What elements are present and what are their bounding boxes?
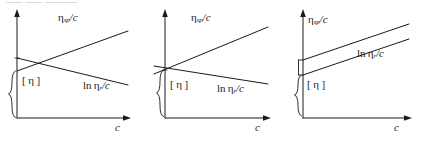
plot-panel-1: ηsp/c ln ηr/c [η] c (0, 0, 140, 141)
ln-eta-symbol: ln η (83, 79, 100, 91)
x-axis-arrowhead (263, 115, 271, 121)
label-eta-sp-over-c: ηsp/c (191, 12, 211, 26)
label-ln-eta-r-over-c: ln ηr/c (217, 83, 244, 97)
line-eta-sp-over-c (154, 27, 268, 74)
plot-panel-2: ηsp/c ln ηr/c [η] c (140, 0, 280, 141)
bracket-close: ] (184, 78, 188, 90)
label-ln-eta-r-over-c: ln ηr/c (357, 48, 384, 62)
eta-sp-denominator: /c (320, 13, 328, 25)
y-axis-arrowhead (300, 9, 306, 17)
intrinsic-eta-symbol: η (311, 78, 321, 90)
panel-3-canvas (281, 0, 421, 141)
ln-eta-denominator: /c (236, 82, 244, 94)
x-axis-label-text: c (255, 121, 260, 133)
y-axis-arrowhead (14, 9, 20, 17)
label-ln-eta-r-over-c: ln ηr/c (83, 80, 110, 94)
label-eta-sp-over-c: ηsp/c (308, 14, 328, 28)
intrinsic-eta-symbol: η (174, 78, 184, 90)
plot-panel-3: ηsp/c ln ηr/c [η] c (281, 0, 421, 141)
bracket-close: ] (36, 74, 40, 86)
x-axis-label-text: c (115, 121, 120, 133)
x-axis-arrowhead (404, 115, 412, 121)
ln-eta-denominator: /c (376, 47, 384, 59)
x-axis-label: c (115, 122, 120, 133)
x-axis-label: c (394, 122, 399, 133)
intrinsic-viscosity-brace (157, 70, 164, 117)
line-eta-sp-over-c (303, 24, 409, 60)
x-axis-arrowhead (123, 115, 131, 121)
line-eta-sp-over-c (17, 31, 128, 71)
intrinsic-eta-symbol: η (26, 74, 36, 86)
label-intrinsic-viscosity: [η] (170, 79, 189, 90)
viscosity-figure: —— —— ———— ηsp/c (0, 0, 421, 141)
y-axis-arrowhead (162, 9, 168, 17)
eta-sp-denominator: /c (203, 11, 211, 23)
intercept-gap-bracket (299, 60, 304, 75)
label-intrinsic-viscosity: [η] (307, 79, 326, 90)
x-axis-label: c (255, 122, 260, 133)
eta-sp-denominator: /c (70, 11, 78, 23)
x-axis-label-text: c (394, 121, 399, 133)
ln-eta-symbol: ln η (357, 47, 374, 59)
ln-eta-symbol: ln η (217, 82, 234, 94)
intrinsic-viscosity-brace (9, 71, 16, 118)
line-ln-eta-r-over-c (303, 39, 409, 75)
ln-eta-denominator: /c (102, 79, 110, 91)
bracket-close: ] (321, 78, 325, 90)
intrinsic-viscosity-brace (295, 75, 302, 116)
label-eta-sp-over-c: ηsp/c (58, 12, 78, 26)
label-intrinsic-viscosity: [η] (22, 75, 41, 86)
